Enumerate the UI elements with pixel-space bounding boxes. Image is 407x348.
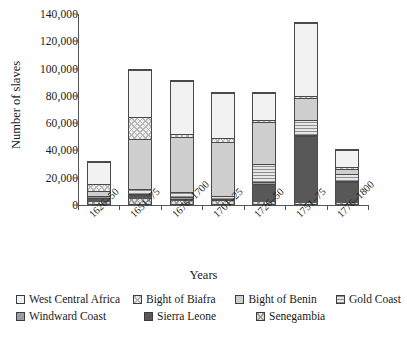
solid-mid-swatch bbox=[235, 295, 244, 304]
bar-segment bbox=[336, 174, 358, 181]
legend-item: Gold Coast bbox=[336, 293, 401, 305]
bar-segment bbox=[129, 70, 151, 117]
legend-item: West Central Africa bbox=[16, 293, 133, 305]
bar-1726–50 bbox=[252, 92, 276, 205]
legend-label: Sierra Leone bbox=[157, 310, 216, 322]
bar-segment bbox=[212, 93, 234, 139]
y-axis-tick-label: 0 bbox=[0, 199, 84, 211]
legend-label: Gold Coast bbox=[349, 293, 401, 305]
x-axis-tick-mark bbox=[161, 206, 162, 210]
plot-area bbox=[78, 14, 368, 205]
bar-1651–75 bbox=[128, 69, 152, 205]
x-axis-tick-mark bbox=[78, 206, 79, 210]
y-axis-tick-label: 120,000 bbox=[0, 35, 84, 47]
bar-segment bbox=[253, 122, 275, 165]
legend-item: Bight of Benin bbox=[235, 293, 336, 305]
x-axis-tick-mark bbox=[244, 206, 245, 210]
legend-label: Senegambia bbox=[269, 310, 325, 322]
y-axis-tick-label: 100,000 bbox=[0, 63, 84, 75]
x-axis-tick-mark bbox=[202, 206, 203, 210]
y-axis-tick-label: 20,000 bbox=[0, 172, 84, 184]
bar-group bbox=[78, 14, 368, 205]
bar-segment bbox=[212, 142, 234, 196]
legend-label: Bight of Benin bbox=[248, 293, 316, 305]
legend-row-2: Windward CoastSierra LeoneSenegambia bbox=[16, 310, 401, 322]
legend-label: West Central Africa bbox=[29, 293, 120, 305]
solid-dark-swatch bbox=[144, 312, 153, 321]
legend-item: Senegambia bbox=[256, 310, 325, 322]
bar-segment bbox=[295, 23, 317, 96]
legend-row-1: West Central AfricaBight of BiafraBight … bbox=[16, 293, 401, 305]
x-axis-tick-mark bbox=[327, 206, 328, 210]
bar-segment bbox=[88, 162, 110, 184]
x-axis-title: Years bbox=[0, 268, 407, 283]
legend-item: Windward Coast bbox=[16, 310, 144, 322]
solid-mid-dark-swatch bbox=[16, 312, 25, 321]
y-axis-tick-label: 40,000 bbox=[0, 144, 84, 156]
x-axis-tick-mark bbox=[368, 206, 369, 210]
y-axis-tick-label: 60,000 bbox=[0, 117, 84, 129]
y-axis-tick-label: 140,000 bbox=[0, 8, 84, 20]
bar-segment bbox=[129, 117, 151, 140]
bar-1701–25 bbox=[211, 92, 235, 205]
legend-item: Bight of Biafra bbox=[133, 293, 235, 305]
crosshatch-swatch bbox=[256, 312, 265, 321]
bar-segment bbox=[336, 150, 358, 167]
x-axis-tick-mark bbox=[119, 206, 120, 210]
y-axis-tick-label: 80,000 bbox=[0, 90, 84, 102]
bar-segment bbox=[171, 81, 193, 135]
diagonal-hatch-swatch bbox=[133, 295, 142, 304]
legend-label: Bight of Biafra bbox=[146, 293, 216, 305]
bar-segment bbox=[171, 137, 193, 192]
bar-segment bbox=[295, 120, 317, 134]
bar-1676–1700 bbox=[170, 80, 194, 206]
legend-item: Sierra Leone bbox=[144, 310, 256, 322]
horizontal-lines-swatch bbox=[336, 295, 345, 304]
legend-label: Windward Coast bbox=[29, 310, 106, 322]
light-plain-swatch bbox=[16, 295, 25, 304]
bar-1751–75 bbox=[294, 22, 318, 205]
bar-segment bbox=[253, 164, 275, 181]
bar-segment bbox=[129, 139, 151, 189]
x-axis-tick-mark bbox=[285, 206, 286, 210]
chart-legend: West Central AfricaBight of BiafraBight … bbox=[16, 293, 401, 327]
bar-segment bbox=[295, 98, 317, 120]
chart-figure: Number of slaves 020,00040,00060,00080,0… bbox=[0, 0, 407, 348]
bar-segment bbox=[253, 93, 275, 120]
